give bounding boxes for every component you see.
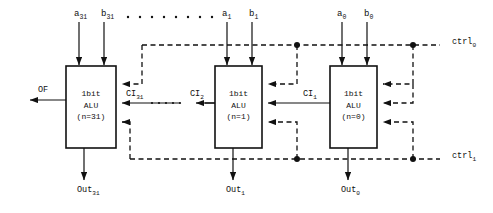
alu31-line1: 1bit [66,88,116,100]
alu-block-label-n31: 1bit ALU (n=31) [66,88,116,123]
output-label-out31: Out31 [77,186,100,197]
alu1-line1: 1bit [215,88,262,100]
alu0-line2: ALU [330,100,377,112]
alu-block-label-n1: 1bit ALU (n=1) [215,88,262,123]
input-label-a31: a31 [74,10,87,21]
control-label-ctrl1: ctrl1 [452,152,476,163]
input-label-a1: a1 [222,10,231,21]
overflow-label: OF [38,86,48,95]
alu1-line2: ALU [215,100,262,112]
ctrl1-branch-alu31 [122,122,130,159]
output-label-out1: Out1 [226,186,245,197]
alu31-line2: ALU [66,100,116,112]
output-label-out0: Out0 [341,186,360,197]
carry-label-ci1: CI1 [303,90,317,101]
input-label-b31: b31 [101,10,114,21]
junction-dot-ctrl1-mid [294,156,300,162]
input-label-b0: b0 [364,10,373,21]
carry-label-ci31: CI31 [126,90,144,101]
alu-block-label-n0: 1bit ALU (n=0) [330,88,377,123]
control-rail-ctrl1 [122,122,440,159]
output-arrows [84,148,348,180]
ctrl0-branch-alu0-lower [383,84,413,103]
junction-dot-ctrl0-mid [294,42,300,48]
alu31-line3: (n=31) [66,111,116,123]
junction-dot-ctrl1-right [410,156,416,162]
alu0-line3: (n=0) [330,111,377,123]
ctrl0-branch-alu0-upper [383,45,413,84]
ctrl0-branch-alu1 [268,45,297,84]
input-label-a0: a0 [337,10,346,21]
junction-dot-ctrl0-right [410,42,416,48]
carry-label-ci2: CI2 [190,90,204,101]
input-label-b1: b1 [249,10,258,21]
operand-input-arrows [79,22,367,65]
control-label-ctrl0: ctrl0 [452,38,476,49]
ctrl0-branch-alu31 [122,45,142,84]
alu1-line3: (n=1) [215,111,262,123]
ctrl1-branch-alu0 [383,122,413,159]
control-rail-ctrl0 [122,45,440,103]
ctrl1-branch-alu1 [268,122,297,159]
top-ellipsis-dots [127,16,213,18]
alu-chain-diagram: a31 b31 a1 b1 a0 b0 1bit ALU (n=31) 1bit… [0,0,493,213]
alu0-line1: 1bit [330,88,377,100]
